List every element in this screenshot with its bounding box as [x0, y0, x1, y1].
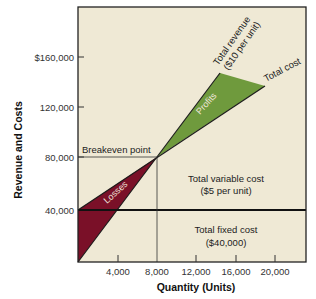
breakeven-label: Breakeven point: [82, 144, 151, 155]
y-tick-40000: 40,000: [45, 205, 74, 216]
fixed-cost-label-1: Total fixed cost: [195, 224, 258, 235]
breakeven-chart: $160,000 120,000 80,000 40,000 4,000 8,0…: [0, 0, 316, 299]
x-axis-title: Quantity (Units): [157, 281, 236, 293]
y-tick-160000: $160,000: [34, 52, 74, 63]
variable-cost-label-1: Total variable cost: [188, 173, 264, 184]
x-tick-8000: 8,000: [145, 266, 169, 277]
x-tick-12000: 12,000: [181, 266, 210, 277]
y-axis-title: Revenue and Costs: [12, 101, 24, 199]
x-tick-20000: 20,000: [260, 266, 289, 277]
y-tick-80000: 80,000: [45, 152, 74, 163]
variable-cost-label-2: ($5 per unit): [200, 185, 251, 196]
x-tick-16000: 16,000: [221, 266, 250, 277]
x-tick-4000: 4,000: [106, 266, 130, 277]
y-tick-120000: 120,000: [40, 102, 74, 113]
fixed-cost-label-2: ($40,000): [206, 237, 247, 248]
